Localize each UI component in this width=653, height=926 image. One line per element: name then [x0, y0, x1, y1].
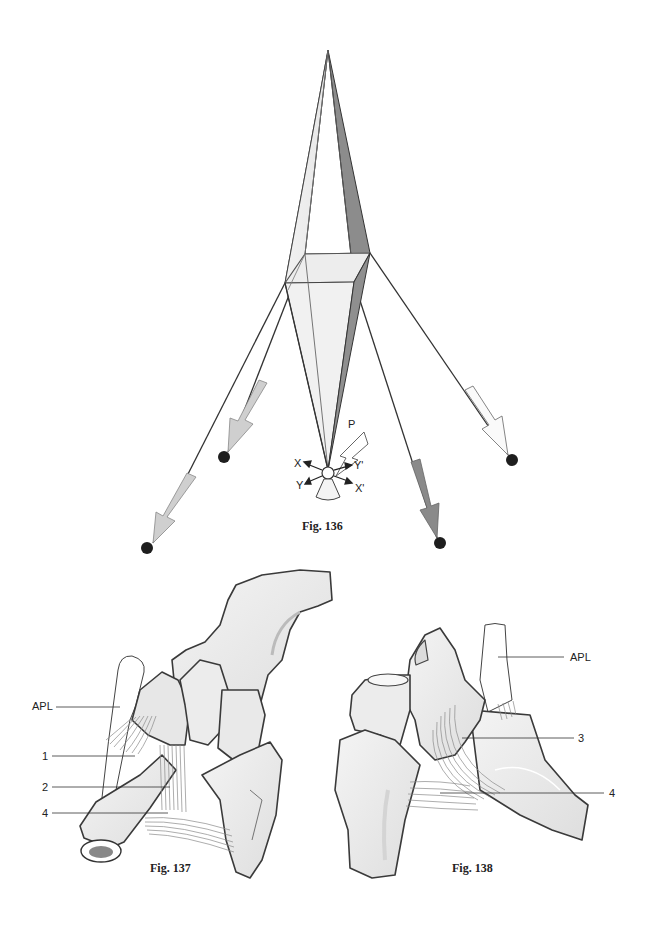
anchor-dot: [218, 451, 230, 463]
pivot-joint: [322, 467, 334, 479]
fig136-caption: Fig. 136: [302, 520, 343, 532]
fig138-label-4: 4: [609, 788, 615, 799]
upper-face-right: [328, 50, 370, 282]
fig137-label-4: 4: [42, 808, 48, 819]
fig137-label-2: 2: [42, 782, 48, 793]
force-label-p: P: [348, 419, 355, 430]
anchor-dot: [506, 454, 518, 466]
fig137-wrist-bones: [80, 570, 332, 878]
anchor-dot: [434, 537, 446, 549]
arrow-right-outer: [465, 386, 508, 455]
fig137-label-1: 1: [42, 751, 48, 762]
anchor-dot: [141, 542, 153, 554]
base-cone: [316, 479, 340, 500]
fig138-label-3: 3: [578, 733, 584, 744]
axis-label-x: X: [294, 458, 301, 469]
arrow-left-outer: [153, 473, 196, 543]
fig137-label-apl: APL: [32, 701, 53, 712]
arrow-left-inner: [228, 380, 267, 452]
axis-label-y: Y: [296, 480, 303, 491]
arrow-right-inner: [411, 459, 439, 538]
fig138-caption: Fig. 138: [452, 862, 493, 874]
fig138-wrist-bones: [335, 624, 588, 879]
axis-label-x-prime: X': [355, 483, 364, 494]
diagram-canvas: [0, 0, 653, 926]
fig138-label-apl: APL: [570, 652, 591, 663]
fig136-tent-model: [141, 50, 518, 554]
fig137-caption: Fig. 137: [150, 862, 191, 874]
axis-label-y-prime: Y': [354, 460, 363, 471]
